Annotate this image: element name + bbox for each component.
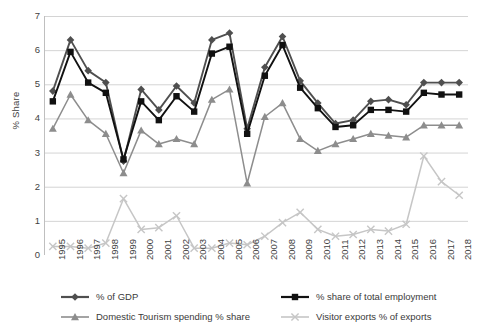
data-point-square <box>120 156 126 162</box>
data-point-triangle <box>243 179 251 186</box>
data-point-x <box>438 178 445 185</box>
data-point-square <box>315 105 321 111</box>
data-point-x <box>173 212 180 219</box>
y-tick-label: 2 <box>24 182 40 192</box>
data-point-square <box>226 44 232 50</box>
x-tick-label: 2000 <box>145 239 155 260</box>
y-tick-label: 0 <box>24 250 40 260</box>
x-tick-label: 2010 <box>322 239 332 260</box>
x-tick-label: 1995 <box>57 239 67 260</box>
legend-item[interactable]: Domestic Tourism spending % share <box>60 311 250 323</box>
data-point-x <box>456 192 463 199</box>
data-point-square <box>403 108 409 114</box>
data-point-square <box>103 90 109 96</box>
legend-item[interactable]: % share of total employment <box>280 291 436 303</box>
x-tick-label: 2005 <box>234 239 244 260</box>
data-point-square <box>244 131 250 137</box>
data-point-diamond <box>385 96 393 104</box>
x-tick-label: 2017 <box>446 239 456 260</box>
legend-label: Domestic Tourism spending % share <box>96 312 250 322</box>
series-line <box>53 156 459 248</box>
data-point-x <box>120 195 127 202</box>
data-point-square <box>421 90 427 96</box>
plot-area <box>44 16 468 255</box>
data-point-triangle <box>279 99 287 106</box>
data-point-diamond <box>279 33 287 41</box>
y-tick-label: 7 <box>24 11 40 21</box>
data-point-diamond <box>67 36 75 44</box>
data-point-square <box>50 98 56 104</box>
data-point-square <box>156 117 162 123</box>
data-point-square <box>262 73 268 79</box>
x-tick-label: 2004 <box>216 239 226 260</box>
legend-item[interactable]: Visitor exports % of exports <box>280 311 431 323</box>
data-point-square <box>85 79 91 85</box>
y-tick-label: 3 <box>24 148 40 158</box>
data-point-square <box>297 85 303 91</box>
y-axis-title: % Share <box>10 66 21 156</box>
data-point-square <box>292 294 298 300</box>
x-tick-label: 2014 <box>393 239 403 260</box>
x-tick-label: 2011 <box>340 240 350 260</box>
x-tick-label: 1996 <box>75 239 85 260</box>
data-point-x <box>314 226 321 233</box>
data-point-square <box>138 98 144 104</box>
chart-legend: % of GDP% share of total employmentDomes… <box>44 291 464 333</box>
data-point-square <box>438 91 444 97</box>
data-point-square <box>191 108 197 114</box>
plot-svg <box>44 16 468 255</box>
x-tick-label: 1999 <box>128 239 138 260</box>
data-point-diamond <box>226 29 234 37</box>
data-point-square <box>209 50 215 56</box>
legend-label: % share of total employment <box>316 292 436 302</box>
series-line <box>53 33 459 161</box>
legend-swatch-diamond-icon <box>60 291 90 303</box>
legend-item[interactable]: % of GDP <box>60 291 138 303</box>
x-tick-label: 2012 <box>357 239 367 260</box>
data-point-square <box>350 122 356 128</box>
data-point-x <box>297 209 304 216</box>
x-tick-label: 2006 <box>251 239 261 260</box>
x-tick-label: 2008 <box>287 239 297 260</box>
y-axis-tick-labels: 76543210 <box>20 16 40 255</box>
x-tick-label: 2007 <box>269 239 279 260</box>
x-tick-label: 2009 <box>304 239 314 260</box>
data-point-square <box>279 42 285 48</box>
data-point-square <box>456 91 462 97</box>
y-tick-label: 4 <box>24 113 40 123</box>
legend-label: % of GDP <box>96 292 138 302</box>
data-point-triangle <box>49 125 57 132</box>
data-point-triangle <box>67 91 75 98</box>
data-point-diamond <box>208 36 216 44</box>
x-tick-label: 2013 <box>375 239 385 260</box>
data-point-triangle <box>120 169 128 176</box>
x-tick-label: 2003 <box>198 239 208 260</box>
data-point-x <box>279 219 286 226</box>
legend-swatch-triangle-icon <box>60 311 90 323</box>
data-point-triangle <box>208 96 216 103</box>
x-tick-label: 2016 <box>428 239 438 260</box>
data-point-triangle <box>137 126 145 133</box>
data-point-triangle <box>226 85 234 92</box>
x-tick-label: 1998 <box>110 239 120 260</box>
series-3 <box>49 152 463 251</box>
x-tick-label: 2018 <box>463 239 473 260</box>
x-tick-label: 2002 <box>181 239 191 260</box>
x-tick-label: 2001 <box>163 239 173 260</box>
legend-swatch-square-icon <box>280 291 310 303</box>
data-point-triangle <box>173 135 181 142</box>
legend-label: Visitor exports % of exports <box>316 312 431 322</box>
tourism-share-line-chart: % Share 76543210 19951996199719981999200… <box>0 0 477 334</box>
legend-swatch-x-icon <box>280 311 310 323</box>
y-tick-label: 5 <box>24 79 40 89</box>
data-point-square <box>173 93 179 99</box>
x-axis-tick-labels: 1995199619971998199920002001200220032004… <box>44 258 468 292</box>
data-point-square <box>368 107 374 113</box>
y-tick-label: 6 <box>24 45 40 55</box>
x-tick-label: 2015 <box>410 239 420 260</box>
data-point-square <box>67 49 73 55</box>
data-point-diamond <box>71 293 79 301</box>
data-point-triangle <box>296 135 304 142</box>
data-point-square <box>332 124 338 130</box>
y-tick-label: 1 <box>24 216 40 226</box>
